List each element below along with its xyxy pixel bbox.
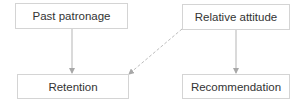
node-label: Retention xyxy=(48,81,97,93)
node-recommendation: Recommendation xyxy=(182,74,290,99)
edge-relative-attitude-to-retention-dashed xyxy=(129,29,182,74)
node-past-patronage: Past patronage xyxy=(15,3,128,29)
node-relative-attitude: Relative attitude xyxy=(182,4,290,30)
node-label: Past patronage xyxy=(32,10,110,22)
node-label: Relative attitude xyxy=(195,11,277,23)
node-retention: Retention xyxy=(17,74,129,99)
node-label: Recommendation xyxy=(191,81,281,93)
